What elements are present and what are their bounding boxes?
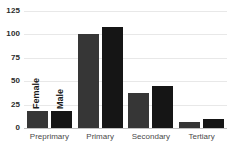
y-axis-tick: 125 <box>6 7 20 15</box>
bar-preprimary-male[interactable]: Male <box>51 111 72 128</box>
series-label-female: Female <box>32 78 41 109</box>
x-axis-tick-tertiary: Tertiary <box>176 130 227 141</box>
x-axis-tick-primary: Primary <box>75 130 126 141</box>
y-axis-tick: 50 <box>11 77 20 85</box>
bar-group-preprimary: Female Male <box>27 11 72 128</box>
x-axis-tick-secondary: Secondary <box>126 130 177 141</box>
bar-group-secondary <box>128 11 173 128</box>
bar-secondary-female[interactable] <box>128 93 149 128</box>
y-axis-tick: 75 <box>11 54 20 62</box>
x-axis: Preprimary Primary Secondary Tertiary <box>24 130 227 146</box>
bar-groups: Female Male <box>24 11 227 128</box>
bar-primary-male[interactable] <box>102 27 123 128</box>
y-axis-tick: 0 <box>15 124 20 132</box>
bar-tertiary-male[interactable] <box>203 119 224 128</box>
y-axis: 125 100 75 50 25 0 <box>0 11 20 128</box>
plot-area: Female Male <box>24 11 227 128</box>
series-label-male: Male <box>56 89 65 109</box>
bar-chart: 125 100 75 50 25 0 Female Male <box>0 0 231 154</box>
bar-secondary-male[interactable] <box>152 86 173 128</box>
gridline-0-baseline <box>24 128 227 129</box>
bar-group-primary <box>78 11 123 128</box>
y-axis-tick: 100 <box>6 30 20 38</box>
bar-tertiary-female[interactable] <box>179 122 200 128</box>
bar-group-tertiary <box>179 11 224 128</box>
y-axis-tick: 25 <box>11 101 20 109</box>
x-axis-tick-preprimary: Preprimary <box>24 130 75 141</box>
bar-preprimary-female[interactable]: Female <box>27 111 48 128</box>
bar-primary-female[interactable] <box>78 34 99 128</box>
